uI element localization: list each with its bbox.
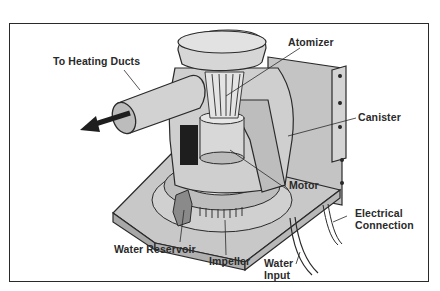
label-water-input-line1: Water bbox=[264, 257, 293, 270]
label-impeller: Impeller bbox=[209, 255, 250, 268]
electrical-cable bbox=[323, 204, 342, 245]
label-motor: Motor bbox=[289, 179, 319, 192]
label-water-reservoir: Water Reservoir bbox=[114, 243, 196, 256]
atomizer bbox=[205, 72, 244, 118]
label-electrical-line2: Connection bbox=[355, 219, 414, 232]
label-heating-ducts: To Heating Ducts bbox=[53, 55, 140, 68]
label-atomizer: Atomizer bbox=[288, 36, 334, 49]
humidifier-illustration bbox=[0, 0, 440, 291]
label-canister: Canister bbox=[358, 111, 401, 124]
label-electrical-line1: Electrical bbox=[355, 207, 403, 220]
canister-cap bbox=[178, 30, 266, 71]
label-water-input-line2: Input bbox=[264, 269, 290, 282]
